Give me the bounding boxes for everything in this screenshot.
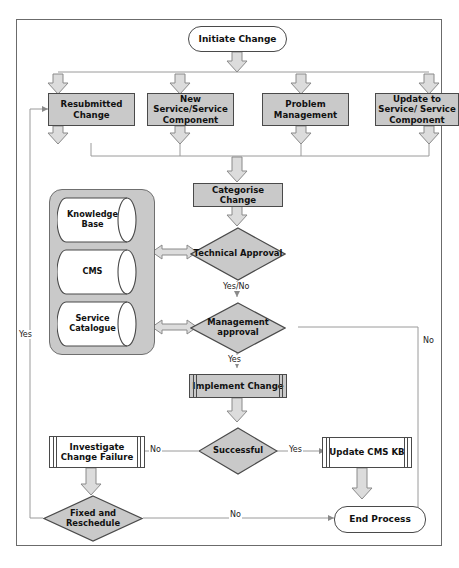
- predefined-bar-left: [326, 438, 330, 467]
- node-successful[interactable]: Successful: [198, 427, 278, 475]
- edge-label-fixed-no: No: [229, 510, 242, 519]
- node-label: Implement Change: [192, 381, 283, 391]
- predefined-bar-right: [404, 438, 408, 467]
- node-label: Successful: [198, 427, 278, 475]
- node-label: End Process: [349, 514, 411, 525]
- node-investigate-change-failure[interactable]: Investigate Change Failure: [49, 436, 145, 468]
- node-new-service-component[interactable]: New Service/Service Component: [147, 93, 234, 126]
- node-label: Update CMS KB: [329, 447, 404, 457]
- node-update-to-service-component[interactable]: Update to Service/ Service Component: [375, 93, 459, 126]
- node-label: Fixed and Reschedule: [43, 495, 143, 542]
- datastore-label: Knowledge Base: [57, 197, 145, 243]
- node-implement-change[interactable]: Implement Change: [189, 374, 287, 398]
- predefined-bar-left: [193, 375, 197, 397]
- flowchart-canvas: Initiate Change Resubmitted Change New S…: [0, 0, 459, 568]
- node-technical-approval[interactable]: Technical Approval: [190, 227, 286, 281]
- node-resubmitted-change[interactable]: Resubmitted Change: [48, 93, 135, 126]
- datastore-label: CMS: [57, 249, 145, 295]
- node-label: Management approval: [190, 302, 286, 354]
- node-label: New Service/Service Component: [148, 94, 233, 124]
- node-label: Technical Approval: [190, 227, 286, 281]
- predefined-bar-right: [137, 437, 141, 467]
- node-label: Update to Service/ Service Component: [376, 94, 458, 124]
- edge-label-fixed-yes: Yes: [18, 330, 33, 339]
- node-problem-management[interactable]: Problem Management: [262, 93, 349, 126]
- datastore-cms[interactable]: CMS: [57, 249, 145, 295]
- node-categorise-change[interactable]: Categorise Change: [193, 183, 283, 207]
- node-management-approval[interactable]: Management approval: [190, 302, 286, 354]
- node-initiate-change[interactable]: Initiate Change: [188, 26, 287, 52]
- edge-label-successful-no: No: [149, 445, 162, 454]
- datastore-knowledge-base[interactable]: Knowledge Base: [57, 197, 145, 243]
- node-update-cms-kb[interactable]: Update CMS KB: [322, 437, 412, 468]
- predefined-bar-left: [53, 437, 57, 467]
- edge-label-mgmt-no: No: [422, 336, 435, 345]
- predefined-bar-right: [279, 375, 283, 397]
- datastore-label: Service Catalogue: [57, 301, 145, 347]
- node-end-process[interactable]: End Process: [334, 506, 426, 533]
- node-label: Initiate Change: [199, 34, 277, 45]
- datastore-service-catalogue[interactable]: Service Catalogue: [57, 301, 145, 347]
- node-fixed-and-reschedule[interactable]: Fixed and Reschedule: [43, 495, 143, 542]
- edge-label-technical-yesno: Yes/No: [222, 282, 251, 291]
- edge-label-successful-yes: Yes: [288, 445, 303, 454]
- edge-label-mgmt-yes: Yes: [227, 355, 242, 364]
- node-label: Investigate Change Failure: [50, 442, 144, 462]
- node-label: Resubmitted Change: [49, 99, 134, 119]
- node-label: Categorise Change: [194, 185, 282, 205]
- node-label: Problem Management: [263, 99, 348, 119]
